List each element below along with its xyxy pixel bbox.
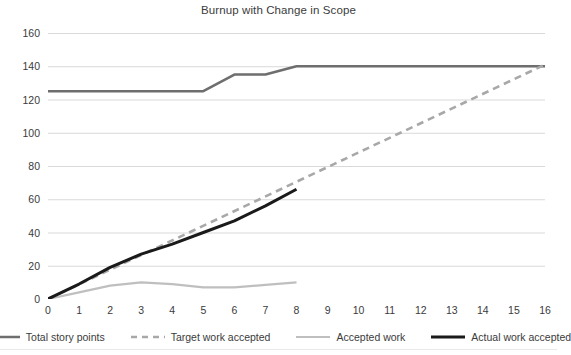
x-axis-tick-label: 0 xyxy=(36,305,60,315)
legend-item-actual-work-accepted[interactable]: Actual work accepted xyxy=(431,331,571,343)
x-axis-tick-label: 14 xyxy=(471,305,495,315)
x-axis-tick-label: 7 xyxy=(253,305,277,315)
x-axis-tick-label: 9 xyxy=(316,305,340,315)
y-axis-tick-label: 60 xyxy=(4,194,40,204)
x-axis-tick-label: 1 xyxy=(67,305,91,315)
y-axis-tick-label: 80 xyxy=(4,161,40,171)
legend-swatch-icon xyxy=(0,332,20,342)
legend-swatch-icon xyxy=(431,332,465,342)
y-axis-tick-label: 20 xyxy=(4,261,40,271)
x-axis-tick-label: 11 xyxy=(378,305,402,315)
x-axis-tick-label: 5 xyxy=(191,305,215,315)
x-axis-tick-label: 4 xyxy=(160,305,184,315)
y-axis-tick-label: 0 xyxy=(4,294,40,304)
plot-area xyxy=(48,33,545,299)
legend-divider xyxy=(0,349,557,350)
x-axis-tick-label: 16 xyxy=(533,305,557,315)
series-line-accepted-work xyxy=(48,282,297,299)
y-axis-tick-label: 140 xyxy=(4,61,40,71)
legend-label: Total story points xyxy=(26,331,105,343)
y-axis-tick-label: 120 xyxy=(4,95,40,105)
legend-item-accepted-work[interactable]: Accepted work xyxy=(296,331,405,343)
legend-item-target-work-accepted[interactable]: Target work accepted xyxy=(131,331,271,343)
y-axis-tick-label: 40 xyxy=(4,228,40,238)
legend-item-total-story-points[interactable]: Total story points xyxy=(0,331,105,343)
x-axis-tick-label: 13 xyxy=(440,305,464,315)
y-axis-tick-label: 160 xyxy=(4,28,40,38)
y-axis-tick-label: 100 xyxy=(4,128,40,138)
chart-legend: Total story pointsTarget work acceptedAc… xyxy=(0,327,557,347)
x-axis-tick-label: 3 xyxy=(129,305,153,315)
series-line-total-story-points xyxy=(48,66,545,91)
x-axis-tick-label: 12 xyxy=(409,305,433,315)
legend-swatch-icon xyxy=(131,332,165,342)
legend-label: Actual work accepted xyxy=(471,331,571,343)
x-axis-tick-label: 6 xyxy=(222,305,246,315)
x-axis-tick-label: 8 xyxy=(285,305,309,315)
chart-title: Burnup with Change in Scope xyxy=(0,4,557,16)
x-axis-tick-label: 2 xyxy=(98,305,122,315)
legend-label: Accepted work xyxy=(336,331,405,343)
x-axis-tick-label: 10 xyxy=(347,305,371,315)
legend-swatch-icon xyxy=(296,332,330,342)
gridlines xyxy=(48,34,545,300)
x-axis-tick-label: 15 xyxy=(502,305,526,315)
legend-label: Target work accepted xyxy=(171,331,271,343)
plot-svg xyxy=(48,33,545,299)
